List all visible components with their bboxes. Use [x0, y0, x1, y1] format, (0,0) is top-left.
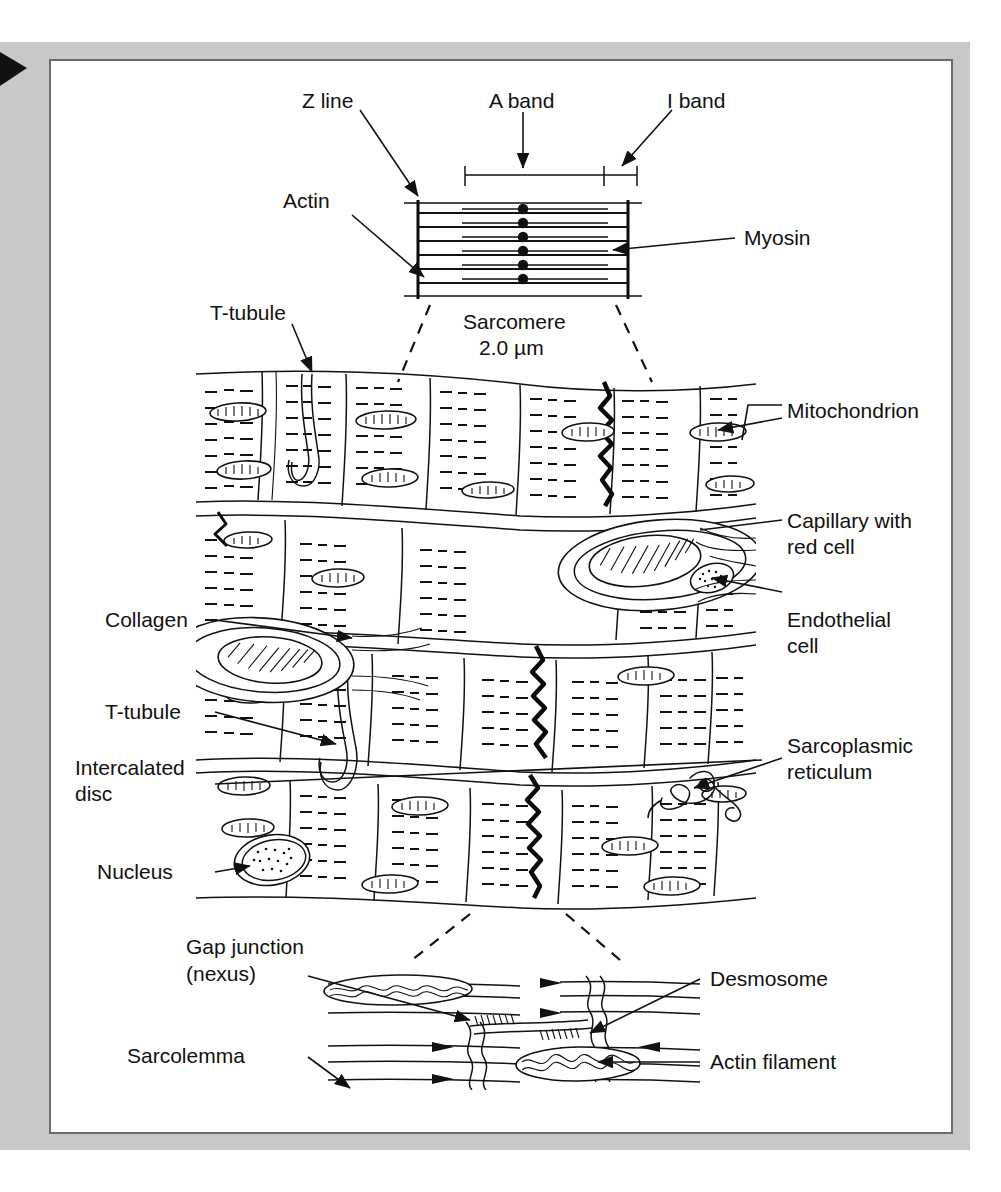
label-z-line: Z line — [302, 89, 353, 112]
label-t-tubule-top: T-tubule — [210, 301, 286, 324]
label-nucleus: Nucleus — [97, 860, 173, 883]
label-actin-filament: Actin filament — [710, 1050, 836, 1073]
caption-sarcomere: Sarcomere — [463, 310, 566, 333]
label-t-tubule-lower: T-tubule — [105, 700, 181, 723]
caption-sarcomere-length: 2.0 µm — [479, 336, 544, 359]
m-line-dot — [518, 260, 528, 270]
m-line-dot — [518, 204, 528, 214]
m-line-dot — [518, 232, 528, 242]
label-i-band: I band — [667, 89, 725, 112]
cardiac-muscle-diagram: Z line A band I band Actin Myosin Sarcom… — [0, 0, 1001, 1192]
label-mitochondrion: Mitochondrion — [787, 399, 919, 422]
label-gap-junction: Gap junction — [186, 935, 304, 958]
label-sarcolemma: Sarcolemma — [127, 1044, 245, 1067]
label-capillary-line2: red cell — [787, 535, 855, 558]
label-intercalated-disc-line2: disc — [75, 782, 112, 805]
label-a-band: A band — [489, 89, 554, 112]
label-collagen: Collagen — [105, 608, 188, 631]
label-sarcoplasmic-reticulum-line2: reticulum — [787, 760, 872, 783]
label-endothelial-cell: Endothelial — [787, 608, 891, 631]
label-endothelial-cell-line2: cell — [787, 634, 819, 657]
label-desmosome: Desmosome — [710, 967, 828, 990]
label-capillary: Capillary with — [787, 509, 912, 532]
label-gap-junction-line2: (nexus) — [186, 962, 256, 985]
figure-root: Z line A band I band Actin Myosin Sarcom… — [0, 0, 1001, 1192]
m-line-dot — [518, 274, 528, 284]
label-intercalated-disc: Intercalated — [75, 756, 185, 779]
label-actin: Actin — [283, 189, 330, 212]
label-myosin: Myosin — [744, 226, 811, 249]
m-line-dot — [518, 218, 528, 228]
label-sarcoplasmic-reticulum: Sarcoplasmic — [787, 734, 913, 757]
m-line-dot — [518, 246, 528, 256]
